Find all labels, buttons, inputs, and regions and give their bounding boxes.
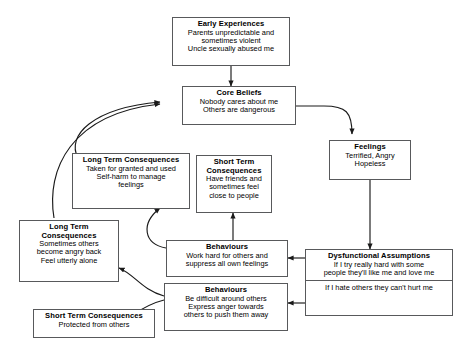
node-core-beliefs[interactable]: Core Beliefs Nobody cares about me Other… xyxy=(182,86,296,125)
node-dysfunctional-assumptions[interactable]: Dysfunctional Assumptions If I try reall… xyxy=(305,249,453,316)
diagram-canvas: Early Experiences Parents unpredictable … xyxy=(0,0,459,352)
node-line: others to push them away xyxy=(168,311,284,319)
edge-behaviours-lower-to-long-term-lower xyxy=(119,268,164,296)
node-line: Uncle sexually abused me xyxy=(176,45,286,53)
edge-behaviours-upper-to-long-term-upper xyxy=(147,208,166,248)
node-behaviours-lower[interactable]: Behaviours Be difficult around others Ex… xyxy=(164,283,288,331)
assumptions-divider xyxy=(306,280,452,281)
node-short-term-consequences-lower[interactable]: Short Term Consequences Protected from o… xyxy=(33,309,155,338)
node-long-term-consequences-upper[interactable]: Long Term Consequences Taken for granted… xyxy=(72,153,190,209)
node-line: close to people xyxy=(200,192,268,200)
node-long-term-consequences-lower[interactable]: Long Term Consequences Sometimes others … xyxy=(19,220,119,282)
node-behaviours-upper[interactable]: Behaviours Work hard for others and supp… xyxy=(166,240,288,277)
node-line: feelings xyxy=(76,181,186,189)
edge-core-beliefs-to-feelings xyxy=(296,106,352,134)
node-line: If I hate others they can't hurt me xyxy=(309,284,449,292)
node-early-experiences[interactable]: Early Experiences Parents unpredictable … xyxy=(172,17,290,66)
node-line: Protected from others xyxy=(37,321,151,329)
node-line: Others are dangerous xyxy=(186,106,292,114)
node-short-term-consequences-upper[interactable]: Short Term Consequences Have friends and… xyxy=(196,155,272,213)
edge-long-term-upper-to-core-beliefs xyxy=(75,102,160,158)
node-line: suppress all own feelings xyxy=(170,260,284,268)
node-line: people they'll like me and love me xyxy=(309,269,449,277)
node-line: Hopeless xyxy=(333,160,407,168)
node-feelings[interactable]: Feelings Terrified, Angry Hopeless xyxy=(329,140,411,180)
node-line: Feel utterly alone xyxy=(23,257,115,265)
